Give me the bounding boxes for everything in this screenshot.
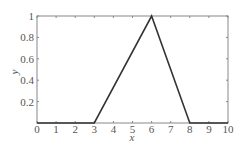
y-tick-label: 0.8 xyxy=(20,31,34,43)
y-axis-ticks: 0.20.40.60.81 xyxy=(20,10,228,108)
y-tick-label: 0.2 xyxy=(20,96,34,108)
x-tick-label: 10 xyxy=(223,123,235,135)
x-tick-label: 7 xyxy=(168,123,174,135)
x-tick-label: 4 xyxy=(111,123,117,135)
chart: 012345678910 0.20.40.60.81 x y xyxy=(0,0,240,146)
x-tick-label: 8 xyxy=(187,123,193,135)
x-tick-label: 3 xyxy=(92,123,98,135)
x-tick-label: 0 xyxy=(34,123,40,135)
x-axis-label: x xyxy=(129,131,135,143)
series-line xyxy=(37,16,228,123)
y-axis-label: y xyxy=(8,69,20,75)
x-axis-ticks: 012345678910 xyxy=(34,16,234,135)
plot-frame xyxy=(37,16,228,123)
x-tick-label: 1 xyxy=(53,123,59,135)
x-tick-label: 6 xyxy=(149,123,155,135)
y-tick-label: 1 xyxy=(29,10,35,22)
x-tick-label: 9 xyxy=(206,123,212,135)
plot-axes xyxy=(37,16,228,123)
y-tick-label: 0.4 xyxy=(20,74,34,86)
data-series xyxy=(37,16,228,123)
y-tick-label: 0.6 xyxy=(20,53,34,65)
x-tick-label: 2 xyxy=(72,123,78,135)
